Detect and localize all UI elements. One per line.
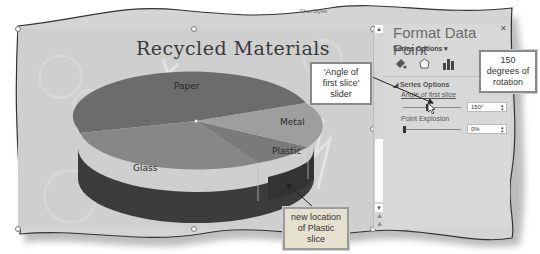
callout-plastic-location: new location of Plastic slice [283, 207, 349, 250]
callout-arrows [0, 0, 540, 254]
callout-angle-slider: 'Angle of first slice' slider [310, 62, 372, 105]
callout-150-degrees: 150 degrees of rotation [479, 50, 537, 93]
